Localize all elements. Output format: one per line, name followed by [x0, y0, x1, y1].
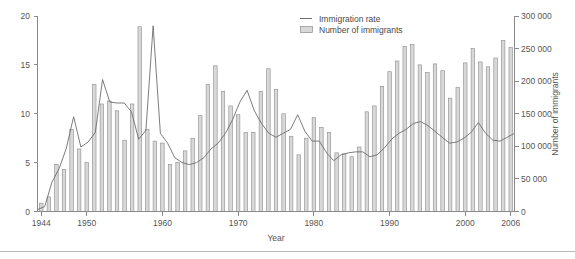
left-tick-label-15: 15 [21, 60, 31, 70]
bar-2005 [501, 40, 504, 211]
bar-1998 [448, 98, 451, 211]
bar-1996 [433, 64, 436, 212]
bar-1955 [123, 140, 126, 211]
bar-1948 [70, 129, 73, 211]
bar-1964 [191, 138, 194, 211]
bar-1954 [115, 111, 118, 212]
bar-1992 [403, 46, 406, 211]
bar-1973 [259, 91, 262, 211]
left-tick-label-10: 10 [21, 109, 31, 119]
bar-1981 [320, 127, 323, 211]
x-tick-label-1960: 1960 [153, 218, 172, 228]
right-tick-label-0: 0 [521, 207, 526, 217]
bar-1977 [289, 136, 292, 211]
bar-1994 [418, 65, 421, 212]
right-tick-label-5: 250 000 [521, 44, 552, 54]
bar-1965 [199, 116, 202, 212]
bar-1978 [297, 155, 300, 212]
bar-1957 [138, 27, 141, 212]
bar-1975 [274, 89, 277, 211]
bar-1997 [441, 71, 444, 212]
bar-1993 [411, 44, 414, 211]
bar-1976 [282, 114, 285, 212]
x-tick-label-1970: 1970 [229, 218, 248, 228]
bar-2002 [479, 62, 482, 212]
legend-label-number-of-immigrants: Number of immigrants [319, 25, 403, 35]
bar-2006 [509, 47, 512, 211]
bar-1958 [146, 129, 149, 211]
bar-1959 [153, 141, 156, 211]
bar-1968 [221, 91, 224, 211]
bar-1982 [327, 132, 330, 211]
bar-1949 [77, 149, 80, 212]
immigration-chart: 05101520 050 000100 000150 000200 000250… [0, 0, 575, 259]
legend-bar-marker [301, 27, 313, 33]
x-tick-label-1990: 1990 [380, 218, 399, 228]
bar-1951 [93, 84, 96, 211]
bar-1950 [85, 163, 88, 212]
right-tick-label-1: 50 000 [521, 174, 547, 184]
x-axis-title: Year [267, 233, 284, 243]
right-tick-label-3: 150 000 [521, 109, 552, 119]
right-axis-title: Number of immigrants [550, 72, 560, 156]
bar-1979 [305, 138, 308, 211]
bar-1966 [206, 84, 209, 211]
bar-1980 [312, 118, 315, 212]
bar-1999 [456, 87, 459, 211]
bar-2003 [486, 67, 489, 212]
right-tick-label-2: 100 000 [521, 141, 552, 151]
bar-1945 [47, 197, 50, 212]
bar-2004 [494, 58, 497, 211]
left-tick-label-5: 5 [25, 158, 30, 168]
bar-1988 [373, 106, 376, 212]
bar-1986 [358, 147, 361, 212]
right-tick-label-4: 200 000 [521, 76, 552, 86]
bar-1967 [214, 66, 217, 212]
bar-1972 [252, 132, 255, 211]
bar-1970 [236, 115, 239, 212]
x-tick-label-1980: 1980 [304, 218, 323, 228]
left-tick-label-20: 20 [21, 11, 31, 21]
x-tick-label-2000: 2000 [456, 218, 475, 228]
bar-1962 [176, 163, 179, 212]
bar-1947 [62, 169, 65, 211]
right-tick-label-6: 300 000 [521, 11, 552, 21]
chart-figure: 05101520 050 000100 000150 000200 000250… [0, 0, 575, 259]
left-tick-label-0: 0 [25, 207, 30, 217]
bar-1971 [244, 132, 247, 211]
bar-1952 [100, 104, 103, 212]
bar-1983 [335, 153, 338, 212]
bar-1985 [350, 157, 353, 212]
bar-1960 [161, 143, 164, 211]
bar-1987 [365, 112, 368, 212]
legend-label-immigration-rate: Immigration rate [319, 14, 381, 24]
x-tick-label-1950: 1950 [77, 218, 96, 228]
bar-1974 [267, 69, 270, 212]
bar-1995 [426, 73, 429, 212]
bar-1963 [183, 151, 186, 212]
bar-1984 [342, 154, 345, 212]
bar-1961 [168, 165, 171, 212]
bar-1953 [108, 101, 111, 211]
x-tick-label-2006: 2006 [501, 218, 520, 228]
x-tick-label-1944: 1944 [32, 218, 51, 228]
